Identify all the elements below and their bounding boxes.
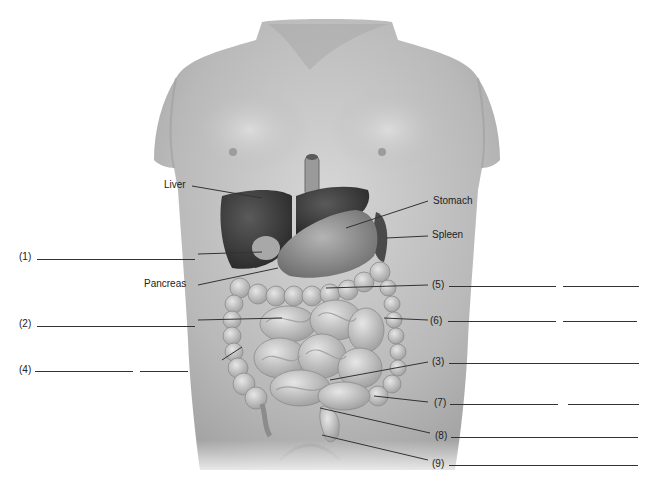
label-number-1: (1)	[19, 251, 31, 263]
label-number-2: (2)	[19, 318, 31, 330]
label-pancreas: Pancreas	[144, 278, 186, 290]
digestive-system-diagram: Liver Stomach Spleen Pancreas (1) (2) (4…	[0, 0, 659, 491]
label-liver: Liver	[164, 179, 186, 191]
label-number-7: (7)	[434, 397, 446, 409]
label-number-8: (8)	[435, 430, 447, 442]
answer-blank-5b[interactable]	[563, 286, 639, 287]
duodenum	[252, 236, 280, 260]
small-intestine	[254, 300, 384, 410]
answer-blank-4b[interactable]	[140, 371, 188, 372]
answer-blank-4a[interactable]	[35, 371, 133, 372]
label-number-4: (4)	[19, 364, 31, 376]
answer-blank-3[interactable]	[449, 363, 639, 364]
label-number-3: (3)	[432, 356, 444, 368]
answer-blank-6b[interactable]	[563, 321, 637, 322]
label-number-5: (5)	[432, 279, 444, 291]
label-number-9: (9)	[432, 458, 444, 470]
answer-blank-7b[interactable]	[568, 404, 639, 405]
answer-blank-8[interactable]	[451, 437, 638, 438]
answer-blank-6a[interactable]	[448, 321, 556, 322]
answer-blank-9[interactable]	[449, 465, 638, 466]
answer-blank-2[interactable]	[37, 326, 195, 327]
label-spleen: Spleen	[432, 229, 463, 241]
label-number-6: (6)	[430, 315, 442, 327]
label-stomach: Stomach	[433, 195, 472, 207]
anatomy-illustration	[0, 0, 659, 491]
answer-blank-7a[interactable]	[450, 404, 558, 405]
answer-blank-1[interactable]	[37, 259, 195, 260]
answer-blank-5a[interactable]	[449, 286, 556, 287]
